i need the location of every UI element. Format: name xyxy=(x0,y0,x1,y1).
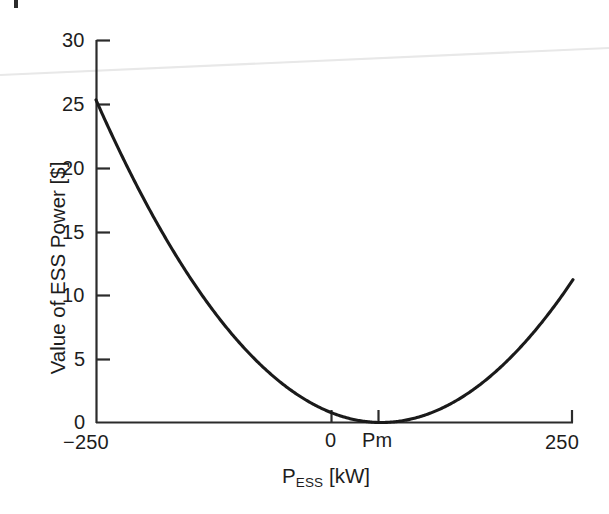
x-axis-label-base: P xyxy=(282,464,296,487)
y-axis-ticks xyxy=(97,41,111,360)
page-edge-artifact xyxy=(14,0,18,8)
y-tick-label-15: 15 xyxy=(62,221,85,244)
x-tick-label-pm: Pm xyxy=(362,429,392,452)
y-tick-label-10: 10 xyxy=(62,284,85,307)
data-series-curve xyxy=(96,100,573,423)
x-axis-label-subscript: ESS xyxy=(296,475,324,490)
y-tick-label-25: 25 xyxy=(62,93,85,116)
y-tick-label-5: 5 xyxy=(74,348,85,371)
y-tick-label-30: 30 xyxy=(62,29,85,52)
x-tick-label-0: 0 xyxy=(325,429,336,452)
chart-figure: Value of ESS Power [$] PESS [kW] 30 25 2… xyxy=(0,0,609,514)
x-axis-label-unit: [kW] xyxy=(323,464,370,487)
x-tick-label-250: 250 xyxy=(545,431,579,454)
y-tick-label-20: 20 xyxy=(62,157,85,180)
x-axis-label: PESS [kW] xyxy=(236,464,416,490)
x-tick-label-minus250: −250 xyxy=(63,431,109,454)
scan-line-artifact xyxy=(0,48,609,75)
